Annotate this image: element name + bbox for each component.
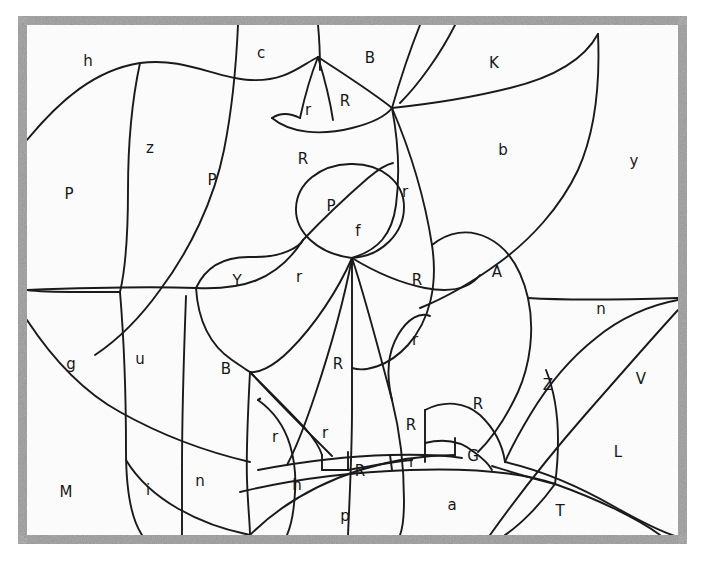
region-label-R: R xyxy=(340,94,350,109)
region-label-a: a xyxy=(447,498,456,513)
region-label-V: V xyxy=(636,372,646,387)
region-label-G: G xyxy=(467,449,479,464)
region-label-z: z xyxy=(146,141,154,156)
region-label-u: u xyxy=(135,352,145,367)
region-label-R: R xyxy=(333,357,343,372)
region-label-L: L xyxy=(614,445,622,460)
region-label-R: R xyxy=(473,397,483,412)
region-label-c: c xyxy=(257,46,265,61)
region-label-R: R xyxy=(298,152,308,167)
region-label-r: r xyxy=(402,185,408,200)
region-label-P: P xyxy=(207,173,216,188)
region-label-R: R xyxy=(406,418,416,433)
region-label-f: f xyxy=(355,224,360,239)
region-label-r: r xyxy=(322,426,328,441)
region-label-Y: Y xyxy=(232,274,241,289)
region-label-i: i xyxy=(146,483,150,498)
region-label-R: R xyxy=(412,273,422,288)
region-label-T: T xyxy=(555,504,564,519)
region-label-r: r xyxy=(409,455,415,470)
region-label-K: K xyxy=(489,56,499,71)
region-label-B: B xyxy=(221,362,231,377)
region-label-n: n xyxy=(195,474,205,489)
region-label-P: P xyxy=(326,199,335,214)
region-label-R: R xyxy=(355,464,365,479)
region-label-A: A xyxy=(492,265,502,280)
map-figure-page: hcBKrRzPRbyPPrfYrRAnguBRrZVRRrrGLniMhRrp… xyxy=(0,0,705,567)
region-label-p: p xyxy=(340,509,350,524)
region-label-h: h xyxy=(83,54,93,69)
region-label-Z: Z xyxy=(543,378,553,393)
region-label-r: r xyxy=(296,270,302,285)
region-labels: hcBKrRzPRbyPPrfYrRAnguBRrZVRRrrGLniMhRrp… xyxy=(0,0,705,567)
region-label-r: r xyxy=(272,430,278,445)
region-label-r: r xyxy=(305,103,311,118)
region-label-r: r xyxy=(412,333,418,348)
region-label-B: B xyxy=(365,51,375,66)
region-label-y: y xyxy=(630,154,639,169)
region-label-g: g xyxy=(66,357,76,372)
region-label-M: M xyxy=(60,485,73,500)
region-label-b: b xyxy=(498,143,508,158)
region-label-h: h xyxy=(292,478,302,493)
region-label-P: P xyxy=(64,187,73,202)
region-label-n: n xyxy=(596,302,606,317)
